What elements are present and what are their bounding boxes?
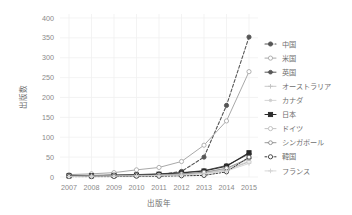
y-tick-label: 250	[42, 73, 54, 82]
data-point	[134, 168, 138, 172]
y-tick-label: 350	[42, 33, 54, 42]
legend-label: カナダ	[282, 96, 303, 105]
data-point	[157, 165, 161, 169]
data-point	[202, 155, 206, 159]
legend-label: 日本	[282, 110, 296, 119]
x-tick-label: 2015	[241, 183, 257, 192]
data-point	[247, 155, 251, 159]
legend-marker-icon	[268, 127, 272, 131]
publication-count-line-chart: 050100150200250300350400 200720082009201…	[0, 0, 352, 215]
legend-label: オーストラリア	[282, 82, 331, 91]
legend-label: シンガポール	[282, 138, 324, 147]
y-tick-label: 200	[42, 93, 54, 102]
data-point	[179, 159, 183, 163]
legend-label: フランス	[282, 167, 310, 176]
x-tick-label: 2008	[84, 183, 100, 192]
x-axis-tick-labels: 200720082009201020112012201320142015	[61, 183, 257, 192]
data-point	[224, 119, 228, 123]
data-point	[202, 143, 206, 147]
x-tick-label: 2011	[151, 183, 166, 192]
legend-label: ドイツ	[282, 124, 303, 133]
legend-label: 英国	[282, 68, 296, 77]
y-tick-label: 100	[42, 133, 54, 142]
x-axis-title: 出版年	[147, 198, 171, 208]
x-tick-label: 2013	[196, 183, 212, 192]
y-tick-label: 50	[46, 153, 54, 162]
legend-label: 米国	[282, 54, 296, 63]
legend-label: 中国	[282, 40, 296, 49]
y-tick-label: 0	[50, 173, 54, 182]
x-tick-label: 2014	[219, 183, 235, 192]
legend-marker-icon	[268, 42, 272, 46]
legend-marker-icon	[268, 155, 272, 159]
legend-marker-icon	[268, 112, 272, 116]
x-tick-label: 2012	[174, 183, 190, 192]
legend-label: 韓国	[282, 152, 296, 161]
data-point	[247, 35, 251, 39]
data-point	[247, 151, 251, 155]
data-point	[224, 103, 228, 107]
chart-canvas: 050100150200250300350400 200720082009201…	[0, 0, 352, 215]
legend-marker-icon	[268, 56, 272, 60]
x-tick-label: 2009	[106, 183, 122, 192]
legend-marker-icon	[269, 99, 272, 102]
y-tick-label: 150	[42, 113, 54, 122]
y-axis-title: 出版数	[18, 85, 28, 109]
y-tick-label: 300	[42, 53, 54, 62]
data-point	[247, 70, 251, 74]
x-tick-label: 2010	[129, 183, 145, 192]
x-tick-label: 2007	[61, 183, 77, 192]
y-tick-label: 400	[42, 14, 54, 23]
